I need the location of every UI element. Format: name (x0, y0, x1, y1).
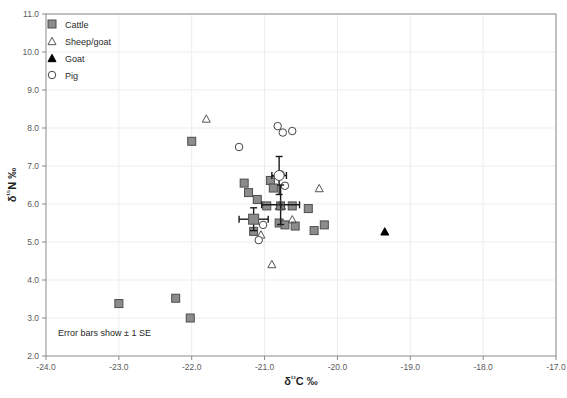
data-point (186, 314, 194, 322)
data-point (274, 122, 282, 130)
data-point (235, 143, 243, 151)
data-point (253, 195, 261, 203)
legend-label: Cattle (65, 20, 89, 30)
data-point (259, 221, 267, 229)
y-tick-label: 8.0 (27, 123, 39, 133)
legend-marker (48, 20, 56, 28)
legend-marker (48, 37, 56, 44)
y-tick-label: 6.0 (27, 199, 39, 209)
data-point (279, 129, 287, 137)
axis-titles-group: δ¹³C ‰δ¹⁵N ‰ (5, 168, 318, 387)
y-tick-label: 10.0 (22, 47, 39, 57)
data-point (188, 137, 196, 145)
x-tick-label: -22.0 (182, 362, 202, 372)
y-tick-label: 4.0 (27, 275, 39, 285)
data-point (269, 184, 277, 192)
mean-marker (274, 171, 284, 181)
scatter-plot-figure: 2.03.04.05.06.07.08.09.010.011.0-24.0-23… (0, 0, 567, 398)
x-tick-label: -23.0 (109, 362, 129, 372)
y-tick-label: 5.0 (27, 237, 39, 247)
x-tick-label: -21.0 (255, 362, 275, 372)
legend-marker (48, 54, 56, 61)
data-point (266, 176, 274, 184)
plot-canvas: 2.03.04.05.06.07.08.09.010.011.0-24.0-23… (0, 0, 567, 398)
legend-item-goat[interactable]: Goat (48, 54, 85, 64)
legend-label: Goat (65, 54, 85, 64)
x-tick-label: -19.0 (401, 362, 421, 372)
data-point (202, 115, 210, 122)
legend-item-cattle[interactable]: Cattle (48, 20, 89, 30)
data-point (172, 294, 180, 302)
error-bar-note-text: Error bars show ± 1 SE (58, 328, 151, 338)
data-point (289, 127, 297, 135)
legend-item-pig[interactable]: Pig (48, 71, 78, 81)
y-tick-label: 3.0 (27, 313, 39, 323)
x-tick-label: -20.0 (328, 362, 348, 372)
x-tick-label: -24.0 (36, 362, 56, 372)
data-point (381, 228, 389, 235)
data-point (240, 179, 248, 187)
y-tick-label: 9.0 (27, 85, 39, 95)
data-point (245, 189, 253, 197)
data-point (268, 260, 276, 267)
data-point (288, 202, 296, 210)
y-axis-title: δ¹⁵N ‰ (5, 168, 18, 203)
legend-item-sheep-goat[interactable]: Sheep/goat (48, 37, 112, 47)
data-point (310, 227, 318, 235)
y-tick-label: 7.0 (27, 161, 39, 171)
series-sheep-goat (202, 115, 323, 268)
y-tick-label: 2.0 (27, 351, 39, 361)
x-tick-label: -17.0 (546, 362, 566, 372)
data-point (281, 182, 289, 190)
series-goat (381, 228, 389, 235)
data-point (263, 202, 271, 210)
error-bar-note: Error bars show ± 1 SE (58, 328, 151, 338)
legend: CattleSheep/goatGoatPig (48, 20, 112, 81)
data-point (320, 221, 328, 229)
series-cattle (115, 137, 328, 322)
legend-label: Pig (65, 71, 78, 81)
data-point (304, 205, 312, 213)
data-point (255, 236, 263, 244)
x-tick-label: -18.0 (473, 362, 493, 372)
legend-label: Sheep/goat (65, 37, 112, 47)
legend-marker (48, 71, 56, 79)
data-point (315, 184, 323, 191)
data-point (115, 300, 123, 308)
y-tick-label: 11.0 (23, 9, 39, 19)
x-axis-title: δ¹³C ‰ (284, 374, 318, 387)
mean-marker (249, 214, 259, 224)
